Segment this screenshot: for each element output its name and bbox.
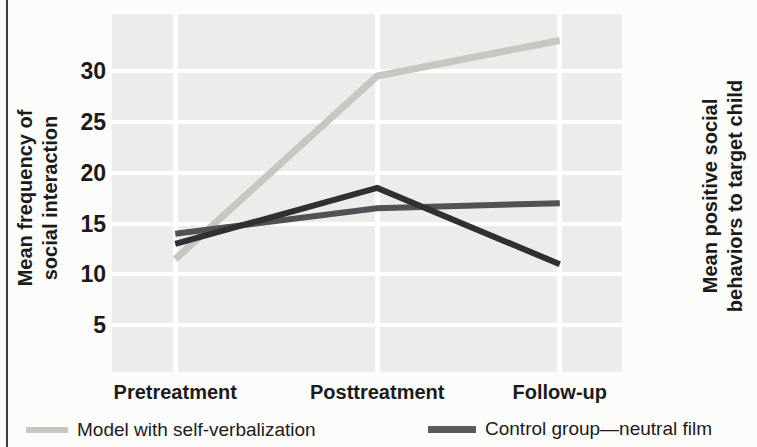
right-y-axis-label-line2: behaviors to target child <box>723 80 748 312</box>
y-tick-label-25: 25 <box>0 109 106 135</box>
series-lines <box>112 14 622 372</box>
y-axis-label: Mean frequency of social interaction <box>13 110 63 287</box>
y-tick-label-10: 10 <box>0 261 106 287</box>
y-tick-label-30: 30 <box>0 58 106 84</box>
legend-swatch-dark <box>428 426 476 433</box>
right-y-axis-label-line1: Mean positive social <box>698 80 723 312</box>
legend-item-control-group: Control group—neutral film <box>428 418 712 440</box>
x-label-followup: Follow-up <box>513 381 607 404</box>
plot-area <box>112 14 622 372</box>
x-label-pretreatment: Pretreatment <box>114 381 237 404</box>
legend-item-model-with-self-verbalization: Model with self-verbalization <box>26 419 316 441</box>
series-line-2 <box>175 188 560 264</box>
legend-label: Model with self-verbalization <box>77 419 316 441</box>
y-tick-label-15: 15 <box>0 211 106 237</box>
x-label-posttreatment: Posttreatment <box>310 381 444 404</box>
legend-label: Control group—neutral film <box>485 418 712 440</box>
y-tick-label-5: 5 <box>0 312 106 338</box>
y-tick-label-20: 20 <box>0 160 106 186</box>
legend-swatch-light <box>26 427 68 433</box>
right-y-axis-label: Mean positive social behaviors to target… <box>698 80 748 312</box>
y-axis-label-line1: Mean frequency of <box>13 110 38 287</box>
y-axis-label-line2: social interaction <box>38 110 63 287</box>
